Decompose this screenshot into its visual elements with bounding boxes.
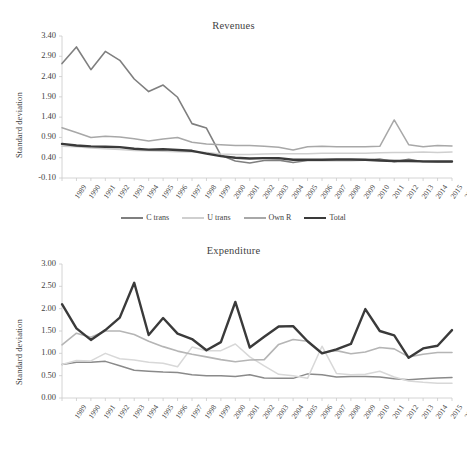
y-tick-label: 2.40 — [22, 71, 56, 81]
y-tick-label: 0.50 — [22, 370, 56, 380]
y-tick-label: 1.50 — [22, 325, 56, 335]
y-tick-label: 1.00 — [22, 347, 56, 357]
expenditure-plot-area — [0, 230, 467, 457]
revenues-legend: C transU transOwn RTotal — [0, 214, 467, 222]
y-tick-label: 0.90 — [22, 131, 56, 141]
y-tick-label: 2.90 — [22, 50, 56, 60]
series-line-own-r — [62, 120, 452, 150]
legend-label: C trans — [146, 214, 169, 222]
y-tick-label: -0.10 — [22, 172, 56, 182]
legend-swatch-icon — [304, 217, 326, 219]
legend-item[interactable]: Own R — [244, 214, 292, 222]
y-tick-label: 0.40 — [22, 152, 56, 162]
y-tick-label: 1.90 — [22, 91, 56, 101]
y-tick-label: 3.40 — [22, 30, 56, 40]
expenditure-chart-panel: Expenditure Standard deviation 0.000.501… — [0, 230, 467, 457]
legend-label: Own R — [269, 214, 292, 222]
legend-swatch-icon — [244, 217, 266, 219]
legend-item[interactable]: C trans — [121, 214, 169, 222]
legend-label: Total — [329, 214, 345, 222]
legend-item[interactable]: U trans — [182, 214, 230, 222]
y-tick-label: 3.00 — [22, 258, 56, 268]
series-line-pub-debt — [62, 283, 452, 358]
y-tick-label: 2.50 — [22, 280, 56, 290]
series-line-pub-inv — [62, 344, 452, 383]
revenues-chart-panel: Revenues Standard deviation -0.100.400.9… — [0, 0, 467, 230]
legend-swatch-icon — [182, 217, 204, 219]
legend-label: U trans — [207, 214, 230, 222]
legend-swatch-icon — [121, 217, 143, 219]
legend-item[interactable]: Total — [304, 214, 345, 222]
y-tick-label: 1.40 — [22, 111, 56, 121]
axis-lines — [62, 36, 452, 178]
y-tick-label: 2.00 — [22, 303, 56, 313]
y-tick-label: 0.00 — [22, 392, 56, 402]
